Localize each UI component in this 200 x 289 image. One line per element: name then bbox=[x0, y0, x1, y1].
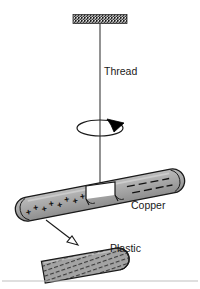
thread-label: Thread bbox=[104, 65, 137, 77]
plastic-label: Plastic bbox=[110, 242, 141, 254]
copper-label: Copper bbox=[131, 199, 166, 211]
physics-diagram: Thread + + + + + + bbox=[0, 0, 200, 289]
rotation-arrowhead bbox=[107, 119, 124, 132]
ceiling-support bbox=[73, 15, 127, 24]
pointer-arrow bbox=[46, 220, 78, 245]
